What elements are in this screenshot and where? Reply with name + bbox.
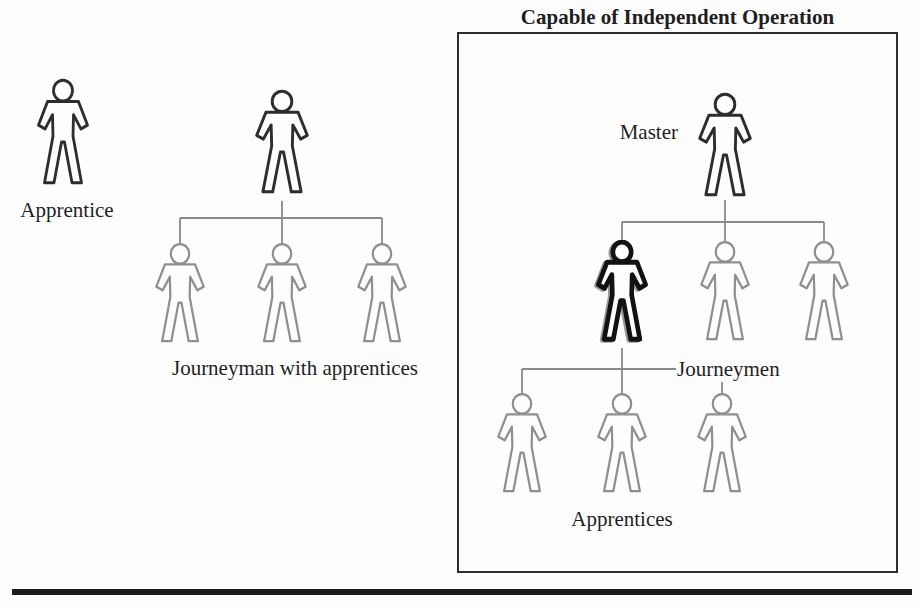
journeyman-root-person-icon <box>251 89 313 201</box>
journeyman-bold-person-icon <box>593 240 651 348</box>
mid-apprentice-3-person-icon <box>353 242 411 350</box>
journeyman-2-person-icon <box>696 240 754 348</box>
master-person-icon <box>694 92 756 204</box>
diagram-canvas: Capable of Independent Operation Apprent… <box>0 0 922 608</box>
box-apprentice-1-person-icon <box>493 392 551 500</box>
tree-connectors <box>0 0 922 608</box>
apprentice-label: Apprentice <box>7 199 127 221</box>
box-apprentice-3-person-icon <box>693 392 751 500</box>
master-label: Master <box>596 121 678 143</box>
journeymen-label: Journeymen <box>677 358 780 380</box>
mid-apprentice-2-person-icon <box>253 242 311 350</box>
journeyman-group-label: Journeyman with apprentices <box>150 357 440 379</box>
box-apprentice-2-person-icon <box>593 392 651 500</box>
apprentices-label: Apprentices <box>552 508 692 530</box>
mid-apprentice-1-person-icon <box>151 242 209 350</box>
journeyman-3-person-icon <box>795 240 853 348</box>
single-apprentice-person-icon <box>33 78 93 192</box>
box-title: Capable of Independent Operation <box>455 5 900 29</box>
bottom-rule <box>12 589 912 595</box>
